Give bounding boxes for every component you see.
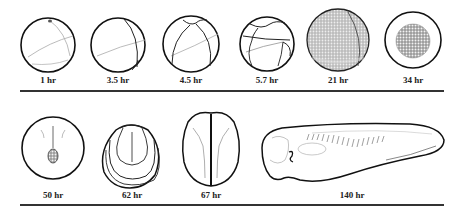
stage-67hr-embryo [183, 112, 240, 186]
stage-label: 34 hr [403, 75, 423, 85]
row-divider [20, 90, 444, 92]
stage-label: 1 hr [40, 75, 56, 85]
stage-label: 62 hr [122, 190, 142, 200]
stage-4-5hr-egg [163, 16, 219, 72]
stage-50hr-embryo [22, 117, 84, 179]
stage-62hr-embryo [103, 125, 160, 188]
embryo-development-figure: 1 hr 3.5 hr 4.5 hr 5.7 hr 21 hr 34 hr 50… [0, 0, 467, 213]
stage-label: 4.5 hr [180, 75, 203, 85]
stage-label: 21 hr [328, 75, 348, 85]
stage-3-5hr-egg [91, 18, 145, 72]
stage-21hr-egg [307, 9, 369, 71]
row-divider [20, 204, 444, 206]
stage-1hr-egg [21, 18, 75, 72]
stage-140hr-tadpole [262, 124, 444, 182]
figure-drawings [0, 0, 467, 213]
stage-34hr-egg [385, 12, 441, 68]
stage-label: 3.5 hr [107, 75, 130, 85]
stage-label: 5.7 hr [256, 75, 279, 85]
stage-5-7hr-egg [240, 17, 294, 71]
stage-label: 50 hr [43, 190, 63, 200]
stage-label: 67 hr [201, 190, 221, 200]
stage-label: 140 hr [340, 190, 365, 200]
